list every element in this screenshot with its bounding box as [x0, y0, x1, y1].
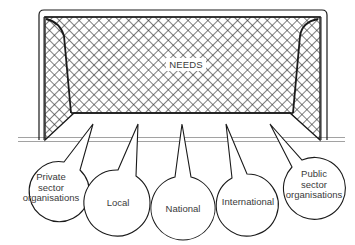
goal-label-needs: NEEDS [166, 58, 206, 71]
balloon-label-international: International [219, 197, 277, 208]
balloon-international [216, 124, 278, 236]
goal-net [45, 17, 320, 140]
balloon-label-private-sector: Private sector organisations [19, 172, 83, 204]
balloon-label-local: Local [95, 198, 141, 209]
balloon-local [84, 124, 150, 236]
balloon-label-public-sector: Public sector organisations [282, 169, 346, 201]
balloon-label-national: National [155, 204, 211, 215]
